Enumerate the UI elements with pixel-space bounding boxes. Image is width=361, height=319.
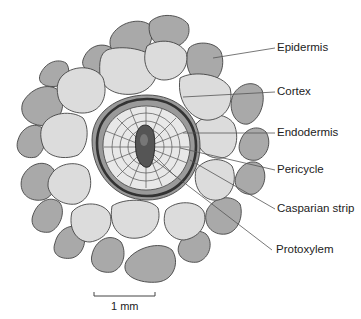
scale-bar bbox=[94, 292, 155, 296]
label-cortex: Cortex bbox=[277, 86, 311, 98]
label-endodermis: Endodermis bbox=[277, 127, 338, 139]
label-epidermis: Epidermis bbox=[277, 42, 328, 54]
label-protoxylem: Protoxylem bbox=[276, 244, 334, 256]
scale-bar-label: 1 mm bbox=[111, 301, 139, 312]
label-casparian-strip: Casparian strip bbox=[277, 203, 354, 215]
label-pericycle: Pericycle bbox=[277, 164, 324, 176]
